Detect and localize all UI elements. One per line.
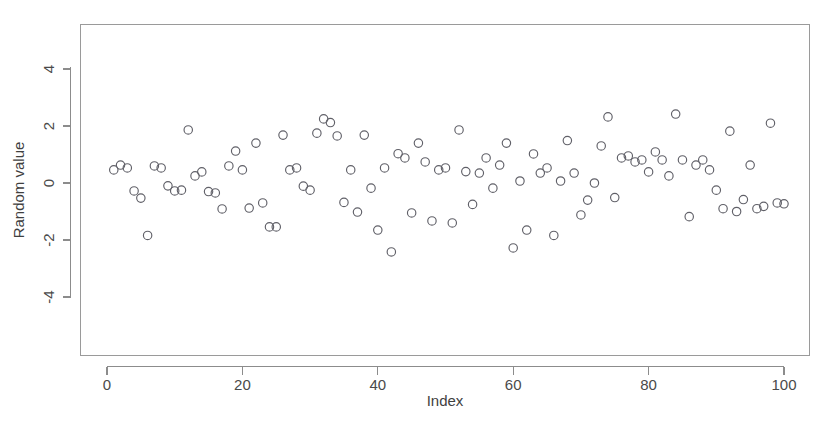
x-axis-title: Index [427, 392, 464, 409]
data-point [130, 187, 138, 195]
data-point [611, 193, 619, 201]
data-point [374, 226, 382, 234]
scatter-plot-figure: -4-2024 020406080100 Index Random value [0, 0, 840, 426]
y-axis: -4-2024 [40, 65, 71, 304]
x-tick-label: 100 [771, 376, 796, 393]
data-point [347, 166, 355, 174]
data-point [523, 226, 531, 234]
data-point [198, 168, 206, 176]
data-point [421, 158, 429, 166]
data-point [225, 162, 233, 170]
x-tick-label: 20 [234, 376, 251, 393]
data-point [143, 231, 151, 239]
data-point [644, 168, 652, 176]
data-point [333, 132, 341, 140]
plot-frame [81, 25, 810, 356]
data-point [401, 154, 409, 162]
data-point [245, 204, 253, 212]
data-point [739, 195, 747, 203]
data-point [259, 199, 267, 207]
data-point [502, 139, 510, 147]
data-point [238, 166, 246, 174]
data-point [231, 147, 239, 155]
data-point [313, 129, 321, 137]
data-point [387, 248, 395, 256]
data-point [353, 208, 361, 216]
data-point [719, 204, 727, 212]
data-point [712, 186, 720, 194]
y-tick-label: 0 [40, 179, 57, 187]
data-point [563, 136, 571, 144]
data-point [428, 217, 436, 225]
data-point [455, 126, 463, 134]
data-point [340, 198, 348, 206]
data-point [583, 196, 591, 204]
data-point [685, 212, 693, 220]
y-axis-title: Random value [10, 142, 27, 239]
data-point [489, 184, 497, 192]
data-point [414, 139, 422, 147]
plot-canvas: -4-2024 020406080100 Index Random value [0, 0, 840, 426]
data-point [482, 154, 490, 162]
data-point [306, 186, 314, 194]
x-tick-label: 40 [369, 376, 386, 393]
data-point [678, 156, 686, 164]
data-point [590, 179, 598, 187]
data-point [509, 244, 517, 252]
y-tick-label: 2 [40, 122, 57, 130]
data-point [732, 207, 740, 215]
data-point [468, 200, 476, 208]
y-tick-label: -2 [40, 233, 57, 246]
data-point [326, 118, 334, 126]
x-tick-group: 020406080100 [103, 367, 797, 394]
data-point [543, 164, 551, 172]
data-point [252, 139, 260, 147]
x-tick-label: 0 [103, 376, 111, 393]
data-point [279, 131, 287, 139]
data-point [407, 209, 415, 217]
data-point [658, 156, 666, 164]
data-point [516, 177, 524, 185]
y-tick-label: -4 [40, 290, 57, 303]
data-point [746, 161, 754, 169]
data-point [123, 164, 131, 172]
data-point [766, 119, 774, 127]
x-tick-label: 60 [505, 376, 522, 393]
data-point [597, 142, 605, 150]
data-point [367, 184, 375, 192]
data-point [651, 148, 659, 156]
data-point [705, 166, 713, 174]
data-point [462, 167, 470, 175]
data-point [218, 205, 226, 213]
data-point [556, 177, 564, 185]
data-point [360, 131, 368, 139]
data-point [577, 211, 585, 219]
y-tick-group: -4-2024 [40, 65, 71, 304]
data-point [380, 164, 388, 172]
data-point [699, 156, 707, 164]
data-points-layer [110, 110, 789, 256]
data-point [475, 169, 483, 177]
data-point [550, 231, 558, 239]
data-point [184, 126, 192, 134]
data-point [448, 219, 456, 227]
data-point [665, 172, 673, 180]
x-tick-label: 80 [640, 376, 657, 393]
data-point [137, 194, 145, 202]
data-point [726, 127, 734, 135]
data-point [495, 161, 503, 169]
data-point [529, 150, 537, 158]
data-point [604, 113, 612, 121]
x-axis: 020406080100 [103, 367, 797, 394]
data-point [570, 169, 578, 177]
y-tick-label: 4 [40, 65, 57, 73]
data-point [671, 110, 679, 118]
